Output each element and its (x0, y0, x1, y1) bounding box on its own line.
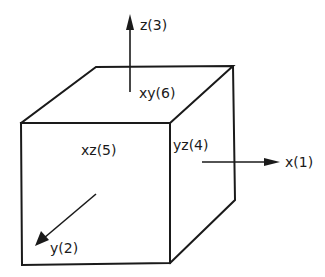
x-axis: x(1) (202, 154, 313, 170)
z-axis-label: z(3) (140, 17, 167, 33)
face-label-xz: xz(5) (81, 142, 116, 158)
top-face-outline (21, 66, 233, 123)
x-arrowhead-icon (264, 158, 280, 166)
cube-axes-diagram: z(3) x(1) y(2) xy(6) xz(5) yz(4) (0, 0, 325, 277)
y-arrowhead-icon (35, 231, 49, 246)
z-arrowhead-icon (126, 14, 134, 30)
face-label-xy: xy(6) (139, 85, 175, 101)
z-axis: z(3) (126, 14, 167, 92)
y-axis-line (44, 194, 96, 238)
right-face-outline (170, 66, 235, 263)
face-label-yz: yz(4) (173, 137, 208, 153)
y-axis: y(2) (35, 194, 96, 256)
cube (21, 66, 235, 265)
y-axis-label: y(2) (50, 240, 78, 256)
x-axis-label: x(1) (285, 154, 313, 170)
